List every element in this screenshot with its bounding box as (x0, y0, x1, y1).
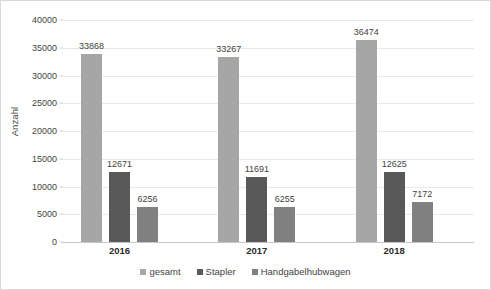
legend-item[interactable]: Stapler (197, 266, 236, 277)
y-axis-tick-label: 30000 (21, 71, 57, 81)
bar[interactable]: 11691 (246, 177, 267, 242)
bar[interactable]: 33868 (81, 54, 102, 242)
bar-value-label: 33267 (216, 45, 241, 54)
bar-value-label: 12625 (382, 160, 407, 169)
bar-value-label: 6255 (275, 195, 295, 204)
bar-value-label: 36474 (354, 28, 379, 37)
bar-value-label: 7172 (412, 190, 432, 199)
x-axis-category-label: 2018 (384, 245, 405, 256)
bar[interactable]: 33267 (218, 57, 239, 242)
bar[interactable]: 36474 (356, 40, 377, 242)
axis-baseline (62, 242, 474, 243)
bar[interactable]: 6255 (274, 207, 295, 242)
bar-chart: Anzahl 050001000015000200002500030000350… (0, 0, 491, 290)
legend-swatch-icon (140, 269, 146, 275)
legend-swatch-icon (252, 269, 258, 275)
plot-area: 3386812671625633267116916255364741262571… (62, 20, 474, 242)
legend-label: Handgabelhubwagen (261, 266, 351, 277)
bar-value-label: 33868 (79, 42, 104, 51)
y-axis-title-text: Anzahl (10, 107, 21, 137)
bar[interactable]: 7172 (412, 202, 433, 242)
legend-label: gesamt (149, 266, 180, 277)
bar[interactable]: 12671 (109, 172, 130, 242)
y-axis-tick-labels: 0500010000150002000025000300003500040000 (21, 20, 57, 242)
legend-item[interactable]: gesamt (140, 266, 180, 277)
y-axis-tick-label: 10000 (21, 182, 57, 192)
bar-value-label: 12671 (107, 160, 132, 169)
bars-layer: 3386812671625633267116916255364741262571… (62, 20, 474, 242)
x-axis-category-label: 2017 (246, 245, 267, 256)
bar-value-label: 6256 (137, 195, 157, 204)
y-axis-tick-label: 15000 (21, 154, 57, 164)
x-axis-category-labels: 201620172018 (62, 245, 474, 261)
y-axis-tick-label: 20000 (21, 126, 57, 136)
bar[interactable]: 6256 (137, 207, 158, 242)
legend: gesamtStaplerHandgabelhubwagen (1, 266, 490, 277)
y-axis-tick-label: 25000 (21, 98, 57, 108)
y-axis-tick-label: 35000 (21, 43, 57, 53)
legend-label: Stapler (206, 266, 236, 277)
bar[interactable]: 12625 (384, 172, 405, 242)
y-axis-tick-label: 40000 (21, 15, 57, 25)
x-axis-category-label: 2016 (109, 245, 130, 256)
legend-item[interactable]: Handgabelhubwagen (252, 266, 351, 277)
legend-swatch-icon (197, 269, 203, 275)
y-axis-tick-label: 5000 (21, 209, 57, 219)
y-axis-tick-label: 0 (21, 237, 57, 247)
bar-value-label: 11691 (245, 165, 269, 174)
